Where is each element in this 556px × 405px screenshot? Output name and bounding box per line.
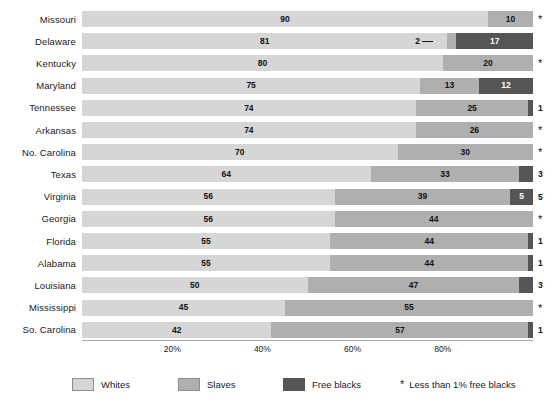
bar-segment-free-blacks: 1 (528, 100, 533, 116)
annotation-value: 2 (415, 36, 420, 46)
row-end-value: 1 (538, 255, 554, 271)
segment-value: 44 (425, 237, 434, 246)
segment-value: 55 (201, 237, 210, 246)
bar-segment-slaves: 10 (488, 11, 533, 27)
row-label-georgia: Georgia (0, 208, 76, 230)
bar-segment-slaves: 20 (443, 55, 533, 71)
legend-item-free-blacks: Free blacks (283, 378, 361, 391)
bar-segment-whites: 64 (82, 166, 371, 182)
segment-value: 56 (204, 192, 213, 201)
annotation-leader: 2 (415, 33, 433, 49)
bar-segment-whites: 90 (82, 11, 488, 27)
stacked-bar: 9010 (82, 11, 533, 27)
segment-value: 55 (201, 259, 210, 268)
chart-row: Delaware812172 (0, 30, 556, 52)
row-label-no-carolina: No. Carolina (0, 141, 76, 163)
stacked-bar: 7030 (82, 144, 533, 160)
chart-row: Alabama554411 (0, 252, 556, 274)
chart-row: Kentucky8020* (0, 52, 556, 74)
segment-value: 39 (418, 192, 427, 201)
bar-segment-slaves: 44 (330, 255, 528, 271)
bar-segment-slaves: 33 (371, 166, 520, 182)
segment-value: 5 (519, 192, 524, 201)
segment-value: 25 (467, 104, 476, 113)
chart-row: Mississippi4555* (0, 297, 556, 319)
segment-value: 81 (260, 37, 269, 46)
bar-segment-whites: 45 (82, 300, 285, 316)
bar-segment-free-blacks: 17 (456, 33, 533, 49)
row-label-florida: Florida (0, 230, 76, 252)
x-tick-label: 20% (164, 344, 181, 354)
chart-row: So. Carolina425711 (0, 319, 556, 341)
chart-row: Tennessee742511 (0, 97, 556, 119)
bar-segment-slaves: 13 (420, 78, 479, 94)
chart-row: Maryland751312 (0, 75, 556, 97)
stacked-bar: 56395 (82, 189, 533, 205)
bar-segment-whites: 55 (82, 233, 330, 249)
bar-segment-whites: 74 (82, 100, 416, 116)
stacked-bar: 4555 (82, 300, 533, 316)
bar-segment-slaves: 55 (285, 300, 533, 316)
bar-segment-free-blacks: 3 (519, 277, 533, 293)
stacked-bar: 74251 (82, 100, 533, 116)
bar-segment-whites: 56 (82, 189, 335, 205)
chart-row: Louisiana504733 (0, 274, 556, 296)
bar-segment-whites: 50 (82, 277, 308, 293)
row-label-louisiana: Louisiana (0, 274, 76, 296)
legend-label-whites: Whites (101, 379, 130, 390)
stacked-bar: 7426 (82, 122, 533, 138)
stacked-bar-chart: Missouri9010*Delaware812172Kentucky8020*… (0, 0, 556, 405)
row-footnote-asterisk: * (538, 144, 554, 160)
row-end-value: 3 (538, 277, 554, 293)
segment-value: 47 (409, 281, 418, 290)
bar-segment-slaves: 25 (416, 100, 529, 116)
stacked-bar: 751312 (82, 78, 533, 94)
segment-value: 55 (404, 303, 413, 312)
bar-segment-free-blacks: 1 (528, 322, 533, 338)
axis-line (82, 340, 533, 341)
bar-segment-whites: 80 (82, 55, 443, 71)
bar-segment-slaves: 44 (330, 233, 528, 249)
row-footnote-asterisk: * (538, 300, 554, 316)
bar-segment-slaves: 2 (447, 33, 456, 49)
bar-segment-free-blacks: 1 (528, 255, 533, 271)
row-label-mississippi: Mississippi (0, 297, 76, 319)
row-end-value: 3 (538, 166, 554, 182)
x-tick-label: 40% (254, 344, 271, 354)
segment-value: 12 (501, 81, 510, 90)
segment-value: 45 (179, 303, 188, 312)
segment-value: 13 (445, 81, 454, 90)
x-axis: 20%40%60%80% (82, 340, 533, 360)
segment-value: 20 (483, 59, 492, 68)
legend-swatch-slaves (178, 378, 200, 391)
stacked-bar: 8020 (82, 55, 533, 71)
row-end-value: 1 (538, 322, 554, 338)
row-end-value: 1 (538, 100, 554, 116)
chart-row: Florida554411 (0, 230, 556, 252)
bar-segment-whites: 74 (82, 122, 416, 138)
segment-value: 50 (190, 281, 199, 290)
legend-label-free-blacks: Free blacks (312, 379, 361, 390)
segment-value: 10 (506, 15, 515, 24)
row-end-value: 1 (538, 233, 554, 249)
chart-row: Virginia563955 (0, 186, 556, 208)
row-label-maryland: Maryland (0, 75, 76, 97)
leader-line (422, 41, 433, 42)
bar-segment-slaves: 30 (398, 144, 533, 160)
row-footnote-asterisk: * (538, 122, 554, 138)
segment-value: 44 (429, 215, 438, 224)
chart-legend: Whites Slaves Free blacks * Less than 1%… (0, 372, 556, 396)
bar-segment-slaves: 47 (308, 277, 520, 293)
bar-segment-slaves: 57 (271, 322, 528, 338)
row-end-value: 5 (538, 189, 554, 205)
stacked-bar: 5644 (82, 211, 533, 227)
segment-value: 57 (395, 326, 404, 335)
bar-segment-free-blacks: 5 (510, 189, 533, 205)
row-footnote-asterisk: * (538, 55, 554, 71)
chart-row: Georgia5644* (0, 208, 556, 230)
chart-row: Texas643333 (0, 163, 556, 185)
chart-row: Missouri9010* (0, 8, 556, 30)
segment-value: 74 (244, 104, 253, 113)
row-label-virginia: Virginia (0, 186, 76, 208)
segment-value: 33 (440, 170, 449, 179)
